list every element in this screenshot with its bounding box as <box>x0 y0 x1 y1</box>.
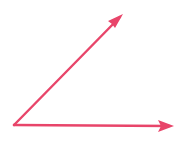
vertex-point <box>13 124 15 126</box>
upper-ray <box>14 17 120 125</box>
angle-rays <box>14 17 169 126</box>
horizontal-ray <box>14 125 169 126</box>
angle-diagram <box>0 0 181 141</box>
